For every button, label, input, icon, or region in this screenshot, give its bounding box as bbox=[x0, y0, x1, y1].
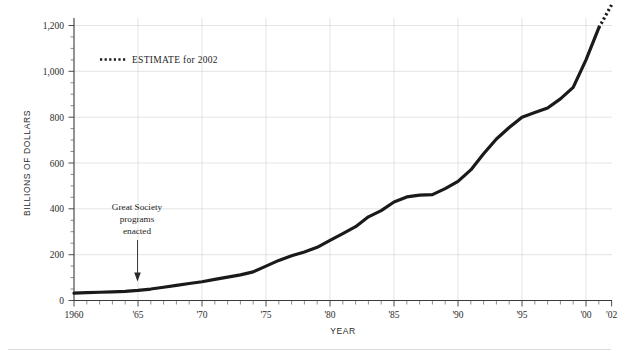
annotation-arrow-head bbox=[134, 273, 141, 282]
line-chart: 1,200 1,000 800 600 400 200 0 1960 '65 '… bbox=[0, 0, 619, 356]
y-tick-label-600: 600 bbox=[50, 159, 65, 169]
series-actual-line bbox=[74, 28, 599, 293]
x-tick-label-1985: '85 bbox=[388, 310, 399, 320]
y-axis-major-ticks bbox=[69, 26, 75, 301]
x-axis-title: YEAR bbox=[330, 326, 356, 336]
annotation-line-1: Great Society bbox=[112, 202, 163, 212]
y-tick-label-1000: 1,000 bbox=[43, 67, 65, 77]
x-tick-label-1980: '80 bbox=[324, 310, 335, 320]
annotation-line-2: programs bbox=[120, 214, 155, 224]
y-axis-tick-labels: 1,200 1,000 800 600 400 200 0 bbox=[43, 21, 65, 306]
chart-legend: ESTIMATE for 2002 bbox=[100, 55, 218, 65]
legend-estimate-label: ESTIMATE for 2002 bbox=[132, 55, 218, 65]
x-axis-tick-labels: 1960 '65 '70 '75 '80 '85 '90 '95 '00 '02 bbox=[65, 310, 618, 320]
series-estimate-line bbox=[599, 5, 612, 28]
y-tick-label-400: 400 bbox=[50, 204, 65, 214]
x-tick-label-2000: '00 bbox=[580, 310, 591, 320]
chart-figure: 1,200 1,000 800 600 400 200 0 1960 '65 '… bbox=[0, 0, 619, 356]
y-tick-label-0: 0 bbox=[59, 296, 64, 306]
annotation-line-3: enacted bbox=[123, 226, 151, 236]
x-tick-label-1965: '65 bbox=[132, 310, 143, 320]
x-tick-label-1970: '70 bbox=[196, 310, 207, 320]
y-tick-label-200: 200 bbox=[50, 250, 65, 260]
x-tick-label-1975: '75 bbox=[260, 310, 271, 320]
x-tick-label-1995: '95 bbox=[516, 310, 527, 320]
y-axis-title: BILLIONS OF DOLLARS bbox=[22, 110, 32, 216]
y-tick-label-1200: 1,200 bbox=[43, 21, 65, 31]
y-tick-label-800: 800 bbox=[50, 113, 65, 123]
annotation-great-society: Great Society programs enacted bbox=[112, 202, 163, 282]
x-tick-label-1960: 1960 bbox=[65, 310, 84, 320]
x-tick-label-2002: '02 bbox=[606, 310, 617, 320]
x-tick-label-1990: '90 bbox=[452, 310, 463, 320]
